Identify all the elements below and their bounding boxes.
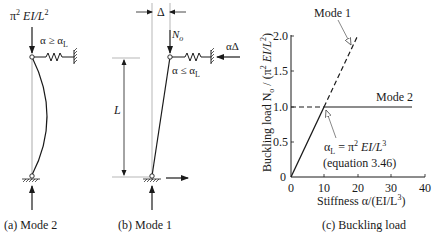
y-tick-label: 0.5 <box>273 135 288 149</box>
bottom-pin-icon <box>30 174 34 178</box>
panel-b-caption: (b) Mode 1 <box>118 218 172 232</box>
mode1-leader <box>338 20 351 45</box>
panel-b-stiffness-condition: α ≤ αL <box>172 64 200 79</box>
x-tick-label: 0 <box>288 181 294 195</box>
mode2-label: Mode 2 <box>376 90 413 104</box>
panel-c-buckling-chart: 0 0.5 1.0 1.5 2.0 0 10 20 30 40 Mode 1 M… <box>259 6 431 232</box>
equation-reference: (equation 3.46) <box>323 156 396 170</box>
y-tick-label: 1.5 <box>273 64 288 78</box>
reaction-label: αΔ <box>226 40 239 52</box>
top-pin-icon <box>30 55 34 59</box>
mode1-dashed-line <box>324 35 358 107</box>
x-tick-label: 40 <box>419 181 431 195</box>
y-axis-label: Buckling load No / (π2 EI/L2) <box>259 33 276 172</box>
spring-icon <box>34 53 74 61</box>
bottom-pin-icon <box>150 174 154 178</box>
x-tick-label: 10 <box>318 181 330 195</box>
x-axis-label: Stiffness α/(EI/L3) <box>317 193 405 208</box>
delta-label: Δ <box>157 5 165 19</box>
panel-c-caption: (c) Buckling load <box>322 218 406 232</box>
panel-b-mode1: Δ No L αΔ α ≤ αL (b) Mode 1 <box>112 3 240 232</box>
panel-a-caption: (a) Mode 2 <box>4 218 57 232</box>
panel-a-mode2: π2 EI/L2 α ≥ αL (a) Mode 2 <box>4 8 77 232</box>
top-pin-icon <box>168 55 172 59</box>
mode1-solid-line <box>291 107 324 177</box>
spring-icon <box>172 53 211 61</box>
alpha-l-annotation: αL = π2 EI/L3 <box>324 139 386 156</box>
alpha-l-leader <box>326 110 336 138</box>
buckled-column-curve <box>32 57 47 175</box>
panel-a-stiffness-condition: α ≥ αL <box>40 34 68 49</box>
x-tick-label: 20 <box>352 181 364 195</box>
y-tick-label: 2.0 <box>273 29 288 43</box>
panel-b-load-label: No <box>171 28 183 43</box>
y-tick-label: 0 <box>280 170 286 184</box>
y-tick-label: 1.0 <box>273 100 288 114</box>
inclined-column <box>152 57 170 176</box>
length-label: L <box>113 103 121 117</box>
x-tick-label: 30 <box>385 181 397 195</box>
panel-a-load-label: π2 EI/L2 <box>10 8 48 23</box>
mode1-label: Mode 1 <box>314 6 351 20</box>
